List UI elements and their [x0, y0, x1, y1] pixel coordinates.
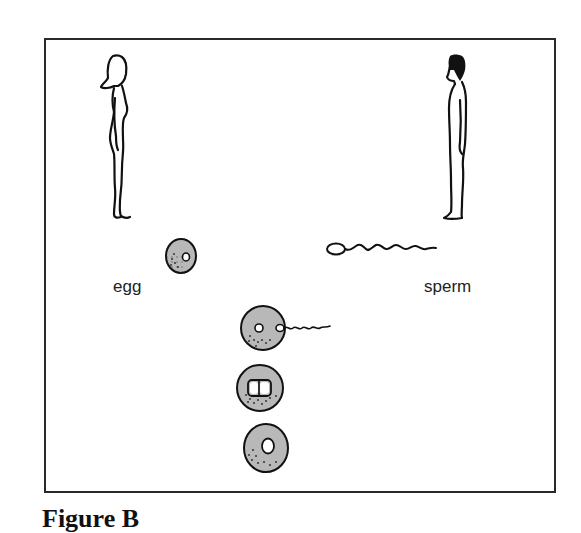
figure-caption: Figure B: [42, 506, 139, 532]
fusion-cell-icon: [237, 365, 283, 411]
egg-label: egg: [113, 277, 141, 297]
male-figure-icon: [444, 55, 466, 219]
sperm-label: sperm: [424, 277, 471, 297]
female-figure-icon: [101, 55, 130, 217]
sperm-cell-icon: [327, 244, 436, 255]
egg-cell-icon: [166, 239, 196, 273]
fertilization-cell-icon: [241, 306, 330, 350]
zygote-cell-icon: [244, 424, 288, 472]
